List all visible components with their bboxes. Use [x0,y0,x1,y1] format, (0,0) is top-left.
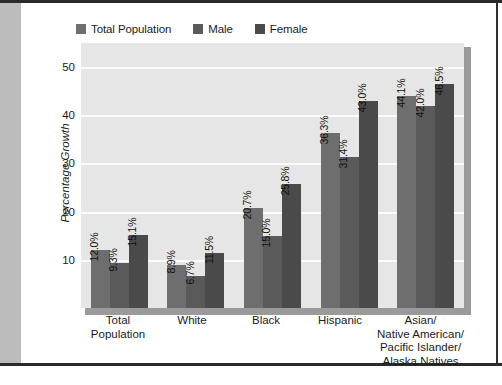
y-axis-tick-label: 50 [45,61,75,73]
bar-groups: 12.0%9.3%15.1%8.9%6.7%11.5%20.7%15.0%25.… [81,43,464,308]
bar-value-label: 11.5% [203,236,215,264]
bar-value-label: 9.3% [107,249,119,272]
y-axis-tick-labels: 1020304050 [41,43,75,308]
bar-value-label: 43.0% [356,83,368,112]
x-axis-category-line: Asian/ [377,314,464,328]
x-axis-category-line: Black [229,314,303,328]
y-axis-tick-label: 10 [45,254,75,266]
x-axis-category-label: Asian/Native American/Pacific Islander/A… [377,314,464,368]
bar-group: 12.0%9.3%15.1% [81,43,158,308]
bar[interactable]: 15.1% [129,235,148,308]
legend-label: Female [270,23,308,35]
x-axis-category-line: Alaska Natives [377,355,464,369]
bar-group: 8.9%6.7%11.5% [158,43,235,308]
bar[interactable]: 11.5% [205,253,224,308]
x-axis-category-label: TotalPopulation [81,314,155,368]
bar-value-label: 15.1% [126,218,138,247]
plot-area: 12.0%9.3%15.1%8.9%6.7%11.5%20.7%15.0%25.… [81,43,464,308]
bar-value-label: 25.8% [279,166,291,195]
bar-value-label: 46.5% [433,67,445,96]
plot-wrapper: 12.0%9.3%15.1%8.9%6.7%11.5%20.7%15.0%25.… [81,43,471,308]
x-axis-category-line: Native American/ [377,328,464,342]
bar-group: 20.7%15.0%25.8% [234,43,311,308]
bar-value-label: 12.0% [88,233,100,262]
legend-entry[interactable]: Male [193,23,233,35]
bar-set: 20.7%15.0%25.8% [234,43,311,308]
y-axis-tick-label: 20 [45,206,75,218]
legend-label: Male [208,23,233,35]
y-axis-tick-label: 40 [45,109,75,121]
legend-swatch-icon [255,24,265,34]
frame-left-margin [0,3,21,363]
bar-value-label: 20.7% [241,191,253,220]
bar-value-label: 6.7% [184,261,196,284]
x-axis-category-line: Total [81,314,155,328]
bar-value-label: 31.4% [337,139,349,168]
x-axis-category-line: White [155,314,229,328]
legend-entry[interactable]: Female [255,23,308,35]
bar-group: 36.3%31.4%43.0% [311,43,388,308]
x-axis-category-line: Hispanic [303,314,377,328]
bar[interactable]: 6.7% [186,276,205,308]
bar-value-label: 36.3% [318,116,330,145]
bar-group: 44.1%42.0%46.5% [387,43,464,308]
bar[interactable]: 25.8% [282,184,301,308]
bar-value-label: 8.9% [165,251,177,274]
bar[interactable]: 43.0% [359,101,378,308]
x-axis-category-label: Black [229,314,303,368]
x-axis-category-line: Population [81,328,155,342]
x-axis-category-label: Hispanic [303,314,377,368]
bar[interactable]: 9.3% [110,263,129,308]
bar-set: 8.9%6.7%11.5% [158,43,235,308]
x-axis-category-labels: TotalPopulationWhiteBlackHispanicAsian/N… [81,314,464,368]
bar[interactable]: 44.1% [397,96,416,308]
y-axis-tick-label: 30 [45,157,75,169]
bar-set: 12.0%9.3%15.1% [81,43,158,308]
chart-legend: Total PopulationMaleFemale [76,21,330,37]
bar[interactable]: 15.0% [263,236,282,308]
bar[interactable]: 46.5% [435,84,454,308]
bar-value-label: 15.0% [260,218,272,247]
bar-value-label: 44.1% [395,78,407,107]
bar-value-label: 42.0% [414,88,426,117]
x-axis-category-label: White [155,314,229,368]
figure-page: Total PopulationMaleFemale Percentage Gr… [0,0,502,385]
bar[interactable]: 31.4% [340,157,359,308]
bar-set: 44.1%42.0%46.5% [387,43,464,308]
x-axis-category-line: Pacific Islander/ [377,341,464,355]
legend-entry[interactable]: Total Population [76,23,171,35]
legend-label: Total Population [91,23,171,35]
plot-depth-right [464,47,471,312]
bar[interactable]: 42.0% [416,106,435,308]
bar-set: 36.3%31.4%43.0% [311,43,388,308]
chart-figure: Total PopulationMaleFemale Percentage Gr… [21,3,498,363]
legend-swatch-icon [76,24,86,34]
legend-swatch-icon [193,24,203,34]
